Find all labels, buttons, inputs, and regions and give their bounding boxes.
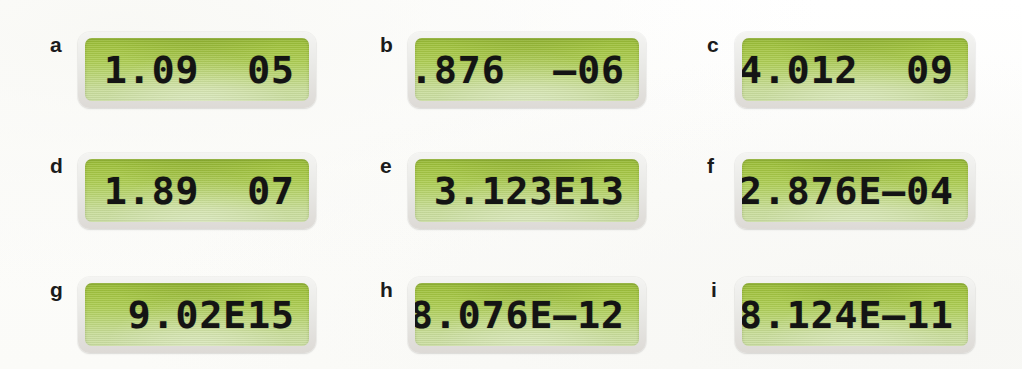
display-grid: a 1.09 05 b 2.876 –06 c 4.012 09: [0, 0, 1022, 369]
lcd-screen-a: 1.09 05: [85, 38, 309, 101]
lcd-readout-d: 1.89 07: [104, 172, 309, 210]
lcd-display-i[interactable]: 8.124E–11: [735, 277, 975, 353]
lcd-readout-b: 2.876 –06: [415, 51, 639, 89]
lcd-screen-g: 9.02E15: [85, 283, 309, 346]
item-label-c: c: [707, 34, 718, 55]
lcd-screen-e: 3.123E13: [415, 159, 639, 222]
item-label-f: f: [707, 155, 714, 176]
item-label-d: d: [50, 155, 62, 176]
lcd-readout-i: 8.124E–11: [742, 296, 968, 334]
lcd-readout-c: 4.012 09: [742, 51, 968, 89]
lcd-readout-f: 2.876E–04: [742, 172, 968, 210]
lcd-readout-g: 9.02E15: [128, 296, 309, 334]
lcd-screen-d: 1.89 07: [85, 159, 309, 222]
lcd-readout-e: 3.123E13: [434, 172, 639, 210]
lcd-screen-c: 4.012 09: [742, 38, 968, 101]
lcd-display-a[interactable]: 1.09 05: [78, 32, 316, 108]
lcd-screen-f: 2.876E–04: [742, 159, 968, 222]
lcd-screen-h: 8.076E–12: [415, 283, 639, 346]
lcd-display-e[interactable]: 3.123E13: [408, 153, 646, 229]
item-label-g: g: [50, 279, 62, 300]
lcd-display-f[interactable]: 2.876E–04: [735, 153, 975, 229]
lcd-display-c[interactable]: 4.012 09: [735, 32, 975, 108]
item-label-e: e: [380, 155, 391, 176]
item-label-a: a: [50, 34, 61, 55]
item-label-i: i: [711, 279, 716, 300]
item-label-b: b: [380, 34, 392, 55]
lcd-display-b[interactable]: 2.876 –06: [408, 32, 646, 108]
item-label-h: h: [380, 279, 392, 300]
lcd-screen-b: 2.876 –06: [415, 38, 639, 101]
lcd-display-h[interactable]: 8.076E–12: [408, 277, 646, 353]
lcd-readout-h: 8.076E–12: [415, 296, 639, 334]
lcd-readout-a: 1.09 05: [104, 51, 309, 89]
figure-calculator-displays: a 1.09 05 b 2.876 –06 c 4.012 09: [0, 0, 1022, 369]
lcd-display-d[interactable]: 1.89 07: [78, 153, 316, 229]
lcd-display-g[interactable]: 9.02E15: [78, 277, 316, 353]
lcd-screen-i: 8.124E–11: [742, 283, 968, 346]
